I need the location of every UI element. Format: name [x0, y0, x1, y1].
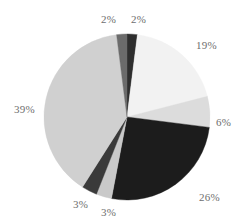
pie-slice-label: 19%	[196, 40, 217, 51]
pie-slice-label: 26%	[199, 192, 220, 203]
pie-slice-group	[44, 34, 210, 200]
pie-chart-canvas	[0, 0, 250, 223]
pie-slice[interactable]	[111, 117, 209, 200]
pie-slice-label: 39%	[14, 104, 35, 115]
pie-slice-label: 3%	[73, 199, 88, 210]
pie-slice-label: 2%	[131, 14, 146, 25]
pie-slice-label: 2%	[101, 14, 116, 25]
pie-chart-figure: 2%19%6%26%3%3%39%2%	[0, 0, 250, 223]
pie-slice-label: 6%	[216, 117, 231, 128]
pie-slice-label: 3%	[101, 207, 116, 218]
